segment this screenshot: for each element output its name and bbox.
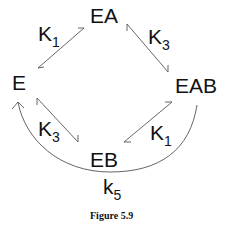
rate-label-k1-top: K1 <box>38 23 60 49</box>
rate-label-k5: k5 <box>103 176 121 202</box>
node-e: E <box>12 72 26 93</box>
rate-label-k1-bottom: K1 <box>150 122 172 148</box>
rate-label-k3-top: K3 <box>148 26 170 52</box>
figure-caption: Figure 5.9 <box>90 210 133 221</box>
node-eb: EB <box>90 149 118 170</box>
rate-label-k3-bottom: K3 <box>38 118 60 144</box>
node-eab: EAB <box>175 75 217 96</box>
node-ea: EA <box>90 5 118 26</box>
